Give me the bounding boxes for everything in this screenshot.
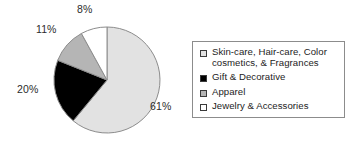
legend-item-jewelry: Jewelry & Accessories	[200, 101, 338, 112]
legend-swatch-icon	[200, 75, 207, 82]
pie-plot-area: 8% 11% 20% 61%	[0, 0, 192, 149]
legend-swatch-icon	[200, 50, 207, 57]
chart-legend: Skin-care, Hair-care, Color cosmetics, &…	[192, 41, 345, 118]
legend-item-gift: Gift & Decorative	[200, 72, 338, 83]
pie-label-gift-percent: 20%	[17, 84, 38, 95]
legend-item-skincare: Skin-care, Hair-care, Color cosmetics, &…	[200, 47, 338, 68]
legend-swatch-icon	[200, 90, 207, 97]
legend-item-label: Jewelry & Accessories	[212, 101, 309, 112]
legend-item-label: Apparel	[212, 87, 245, 98]
pie-label-apparel-percent: 11%	[36, 24, 57, 35]
pie-svg	[0, 0, 192, 149]
legend-item-label: Skin-care, Hair-care, Color cosmetics, &…	[212, 47, 338, 68]
legend-item-label: Gift & Decorative	[212, 72, 285, 83]
legend-swatch-icon	[200, 104, 207, 111]
pie-chart-figure: 8% 11% 20% 61% Skin-care, Hair-care, Col…	[0, 0, 360, 149]
legend-item-apparel: Apparel	[200, 87, 338, 98]
pie-label-jewelry-percent: 8%	[77, 4, 92, 15]
pie-label-skincare-percent: 61%	[150, 101, 171, 112]
